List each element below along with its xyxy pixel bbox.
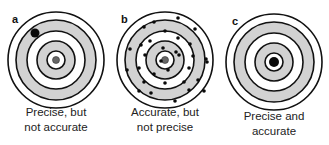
hit-mark: [166, 68, 170, 72]
hit-mark: [31, 29, 40, 38]
hit-mark: [188, 42, 192, 46]
hit-mark: [161, 46, 165, 50]
hit-mark: [202, 89, 206, 93]
hit-mark: [128, 47, 132, 51]
hit-mark: [139, 43, 143, 47]
hit-mark: [125, 68, 129, 72]
hit-mark: [187, 88, 191, 92]
hit-mark: [163, 81, 167, 85]
hit-mark: [173, 99, 177, 103]
caption-a-line1: Precise, but: [6, 105, 106, 120]
caption-c: Precise and accurate: [224, 109, 324, 139]
target-a: [8, 12, 104, 108]
target-b: [117, 12, 213, 108]
bullseye-dot: [53, 57, 60, 64]
hit-mark: [193, 27, 197, 31]
hit-mark: [137, 66, 141, 70]
caption-a: Precise, but not accurate: [6, 105, 106, 135]
hit-mark: [174, 50, 178, 54]
panel-letter-a: a: [12, 14, 18, 25]
hit-mark: [163, 29, 167, 33]
hit-mark: [159, 59, 163, 63]
hit-mark: [142, 80, 146, 84]
caption-c-line2: accurate: [224, 124, 324, 139]
hit-mark: [152, 72, 156, 76]
bullseye-dot: [162, 57, 169, 64]
hit-mark: [196, 78, 200, 82]
caption-a-line2: not accurate: [6, 120, 106, 135]
hit-mark: [149, 91, 153, 95]
hit-mark: [148, 39, 152, 43]
caption-b: Accurate, but not precise: [115, 105, 215, 135]
caption-b-line1: Accurate, but: [115, 105, 215, 120]
hit-mark: [176, 36, 180, 40]
hit-mark: [187, 66, 191, 70]
caption-b-line2: not precise: [115, 120, 215, 135]
hit-mark: [177, 53, 181, 57]
hit-mark: [191, 54, 195, 58]
hit-mark: [152, 20, 156, 24]
caption-c-line1: Precise and: [224, 109, 324, 124]
hit-mark: [269, 57, 279, 67]
hit-mark: [182, 80, 186, 84]
target-c: [226, 14, 322, 110]
hit-mark: [143, 53, 147, 57]
panel-letter-c: c: [232, 16, 238, 27]
hit-mark: [142, 25, 146, 29]
hit-mark: [205, 60, 209, 64]
hit-mark: [137, 89, 141, 93]
hit-mark: [176, 16, 180, 20]
panel-letter-b: b: [121, 14, 128, 25]
